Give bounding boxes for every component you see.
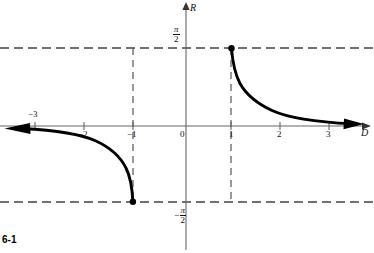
x-tick-label-minus-1: −1 [127,130,137,139]
x-tick-label-3: 3 [326,130,331,139]
endpoint-dot-minus-1-negative-pi-over-2 [130,199,136,205]
graph-canvas [0,0,374,253]
endpoint-dot-1-pi-over-2 [228,45,234,51]
fraction-stack: π 2 [180,206,187,225]
figure-caption: 6-1 [2,234,16,245]
x-tick-label-2: 2 [277,130,282,139]
y-axis-arrowhead [182,2,189,10]
y-axis-label: R [190,3,196,13]
two-denominator: 2 [173,35,180,44]
curve-branch-left [22,129,133,202]
minus-sign: − [174,211,179,220]
curve-left-arrowhead [5,123,31,134]
curve-branch-right [232,49,353,124]
origin-label: 0 [180,130,185,139]
x-axis-label: D [361,128,368,138]
x-tick-label-1: 1 [229,130,234,139]
two-denominator: 2 [180,216,187,225]
x-tick-label-minus-3: −3 [28,110,38,119]
x-tick-label-minus-2: −2 [78,130,88,139]
figure-container: R D 0 −3 −2 −1 1 2 3 π 2 − π 2 6-1 [0,0,374,253]
y-tick-label-pi-over-2: π 2 [173,25,180,44]
y-tick-label-negative-pi-over-2: − π 2 [174,206,186,225]
